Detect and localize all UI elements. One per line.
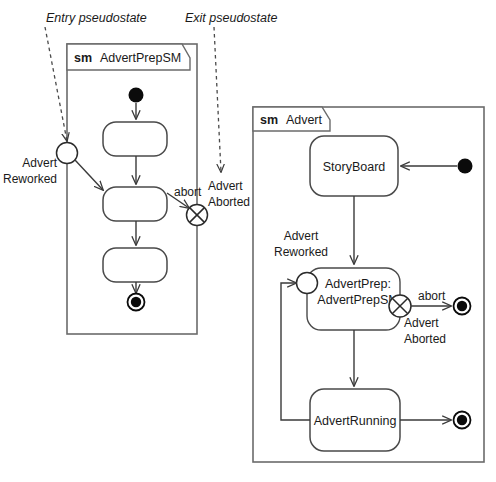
right-exit-label-line2: Aborted bbox=[404, 332, 446, 346]
exit-pseudostate-note: Exit pseudostate bbox=[185, 11, 277, 25]
left-frame-title: sm AdvertPrepSM bbox=[74, 51, 181, 65]
left-exit-pseudostate[interactable] bbox=[187, 205, 208, 226]
left-exit-label-line1: Advert bbox=[208, 179, 243, 193]
right-initial-node bbox=[458, 159, 473, 174]
left-abort-label: abort bbox=[174, 185, 202, 199]
right-exit-label-line1: Advert bbox=[404, 316, 439, 330]
left-frame-name: AdvertPrepSM bbox=[100, 51, 181, 65]
diagram-canvas: sm AdvertPrepSM bbox=[0, 0, 496, 482]
left-exit-label-line2: Aborted bbox=[208, 195, 250, 209]
left-state-3[interactable] bbox=[103, 248, 167, 282]
left-state-2[interactable] bbox=[103, 187, 167, 221]
state-machine-diagram: sm AdvertPrepSM bbox=[0, 0, 496, 482]
state-advertprep-label-line1: AdvertPrep: bbox=[325, 277, 391, 291]
right-entry-label-line1: Advert bbox=[284, 229, 319, 243]
left-final-state bbox=[128, 294, 145, 311]
right-entry-pseudostate[interactable] bbox=[297, 273, 318, 294]
right-final-state-abort bbox=[454, 298, 471, 315]
state-advertprep-label-line2: AdvertPrepSM bbox=[317, 293, 398, 307]
left-state-1[interactable] bbox=[103, 122, 167, 156]
left-entry-label-line1: Advert bbox=[22, 156, 57, 170]
right-frame-name: Advert bbox=[286, 113, 323, 127]
right-final-state-done bbox=[454, 412, 471, 429]
left-entry-pseudostate[interactable] bbox=[57, 143, 78, 164]
right-frame-title: sm Advert bbox=[260, 113, 323, 127]
left-frame-keyword: sm bbox=[74, 51, 92, 65]
right-entry-label-line2: Reworked bbox=[274, 245, 328, 259]
right-abort-label: abort bbox=[418, 289, 446, 303]
entry-note-leader bbox=[45, 27, 67, 141]
entry-pseudostate-note: Entry pseudostate bbox=[46, 11, 147, 25]
state-advertrunning-label: AdvertRunning bbox=[314, 414, 397, 428]
left-entry-label-line2: Reworked bbox=[3, 172, 57, 186]
right-exit-pseudostate[interactable] bbox=[389, 295, 411, 317]
right-frame-keyword: sm bbox=[260, 113, 278, 127]
left-initial-node bbox=[129, 88, 144, 103]
exit-note-leader bbox=[214, 27, 221, 172]
state-storyboard-label: StoryBoard bbox=[323, 160, 386, 174]
right-state-machine-frame: sm Advert StoryBoard AdvertPrep: AdvertP… bbox=[253, 107, 484, 462]
